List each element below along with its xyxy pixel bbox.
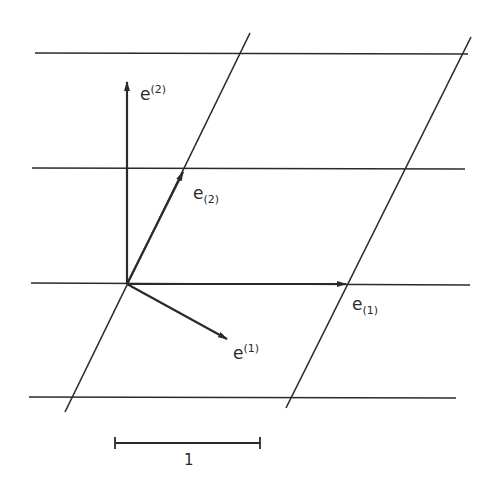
scale-bar xyxy=(115,437,260,449)
label-e-sup-1: e(1) xyxy=(233,343,259,362)
label-e-sub-1: e(1) xyxy=(352,296,378,316)
label-index: (1) xyxy=(362,304,378,317)
label-e-sup-2: e(2) xyxy=(140,84,166,103)
label-base: e xyxy=(233,343,243,363)
label-base: e xyxy=(352,294,362,314)
vector-e-sub-2 xyxy=(127,172,183,284)
label-base: e xyxy=(193,183,203,203)
label-index: (1) xyxy=(243,342,259,355)
scale-bar-label: 1 xyxy=(184,451,194,469)
lattice-line-horizontal-1 xyxy=(35,53,468,54)
label-index: (2) xyxy=(203,193,219,206)
vector-e-sup-1 xyxy=(127,284,227,339)
label-index: (2) xyxy=(150,83,166,96)
label-e-sub-2: e(2) xyxy=(193,185,219,205)
lattice-diagram xyxy=(0,0,491,488)
label-base: e xyxy=(140,84,150,104)
lattice-line-slanted-2 xyxy=(286,37,471,408)
lattice-line-horizontal-2 xyxy=(32,168,465,169)
lattice-line-horizontal-4 xyxy=(29,397,456,398)
